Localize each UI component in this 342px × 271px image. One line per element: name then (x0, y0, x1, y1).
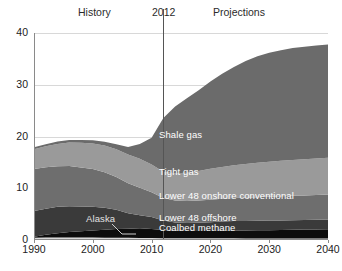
x-tick-label: 1990 (22, 243, 45, 255)
history-region-label: History (78, 6, 111, 18)
y-tick-label: 10 (2, 181, 28, 193)
y-tick-label: 30 (2, 78, 28, 90)
natural-gas-production-area-chart: History 2012 Projections 010203040 19902… (0, 0, 342, 271)
y-tick-label: 20 (2, 130, 28, 142)
x-tick-label: 2010 (140, 243, 163, 255)
x-tick-label: 2000 (81, 243, 104, 255)
x-axis-labels: 199020002010202020302040 (0, 243, 342, 263)
series-label-lower-48-onshore-conventional: Lower 48 onshore conventional (159, 190, 294, 201)
series-label-tight-gas: Tight gas (159, 166, 199, 177)
x-tick-label: 2030 (258, 243, 281, 255)
series-label-coalbed-methane: Coalbed methane (159, 222, 236, 233)
history-projection-divider-line (163, 9, 164, 240)
x-tick-label: 2020 (199, 243, 222, 255)
projections-region-label: Projections (213, 6, 265, 18)
x-tick-label: 2040 (316, 243, 339, 255)
y-tick-label: 40 (2, 26, 28, 38)
series-label-shale-gas: Shale gas (159, 129, 202, 140)
series-label-alaska: Alaska (86, 213, 115, 224)
